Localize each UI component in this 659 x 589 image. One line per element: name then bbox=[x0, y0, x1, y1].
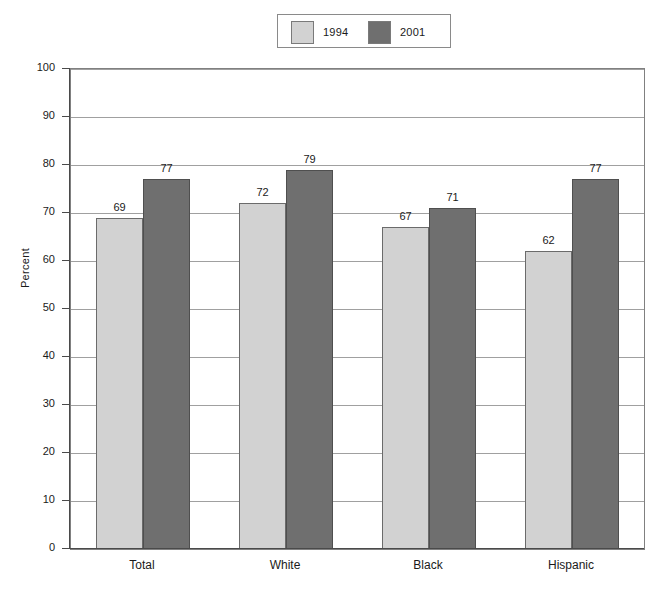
gridline bbox=[71, 117, 644, 118]
y-axis-tick bbox=[62, 68, 69, 69]
bar-black-1994 bbox=[382, 227, 429, 549]
legend-entry-1994: 1994 bbox=[291, 20, 348, 44]
y-axis-tick bbox=[62, 116, 69, 117]
bar-value-label: 71 bbox=[419, 191, 486, 203]
legend-entry-2001: 2001 bbox=[368, 20, 425, 44]
bar-value-label: 77 bbox=[133, 162, 200, 174]
y-axis-tick-label: 100 bbox=[15, 61, 55, 73]
y-axis-tick-label: 60 bbox=[15, 253, 55, 265]
y-axis-title: Percent bbox=[19, 228, 31, 308]
x-axis-line bbox=[70, 548, 644, 549]
gridline bbox=[71, 69, 644, 70]
y-axis-tick-label: 0 bbox=[15, 541, 55, 553]
x-axis-label-total: Total bbox=[92, 558, 192, 572]
y-axis-tick-label: 20 bbox=[15, 445, 55, 457]
chart-plot-area: 6977727967716277 bbox=[71, 69, 644, 549]
y-axis-tick bbox=[62, 308, 69, 309]
y-axis-tick-label: 90 bbox=[15, 109, 55, 121]
legend-label-2001: 2001 bbox=[400, 26, 425, 38]
y-axis-tick bbox=[62, 500, 69, 501]
chart-legend: 1994 2001 bbox=[277, 14, 451, 48]
x-axis-label-black: Black bbox=[378, 558, 478, 572]
bar-white-1994 bbox=[239, 203, 286, 549]
y-axis-tick-label: 40 bbox=[15, 349, 55, 361]
y-axis-tick bbox=[62, 164, 69, 165]
bar-black-2001 bbox=[429, 208, 476, 549]
y-axis-tick-label: 70 bbox=[15, 205, 55, 217]
y-axis-tick bbox=[62, 212, 69, 213]
legend-swatch-1994 bbox=[291, 21, 314, 44]
bar-total-1994 bbox=[96, 218, 143, 549]
y-axis-tick-label: 50 bbox=[15, 301, 55, 313]
y-axis-tick-label: 10 bbox=[15, 493, 55, 505]
y-axis-tick bbox=[62, 356, 69, 357]
x-axis-label-white: White bbox=[235, 558, 335, 572]
bar-white-2001 bbox=[286, 170, 333, 549]
y-axis-tick-label: 30 bbox=[15, 397, 55, 409]
bar-hispanic-2001 bbox=[572, 179, 619, 549]
bar-value-label: 79 bbox=[276, 153, 343, 165]
legend-label-1994: 1994 bbox=[323, 26, 348, 38]
bar-hispanic-1994 bbox=[525, 251, 572, 549]
chart-plot-frame: 6977727967716277 bbox=[70, 68, 645, 550]
y-axis-line bbox=[69, 68, 70, 549]
y-axis-tick bbox=[62, 452, 69, 453]
bar-value-label: 77 bbox=[562, 162, 629, 174]
y-axis-tick bbox=[62, 548, 69, 549]
y-axis-tick bbox=[62, 260, 69, 261]
x-axis-label-hispanic: Hispanic bbox=[521, 558, 621, 572]
y-axis-tick bbox=[62, 404, 69, 405]
bar-total-2001 bbox=[143, 179, 190, 549]
y-axis-tick-label: 80 bbox=[15, 157, 55, 169]
legend-swatch-2001 bbox=[368, 21, 391, 44]
